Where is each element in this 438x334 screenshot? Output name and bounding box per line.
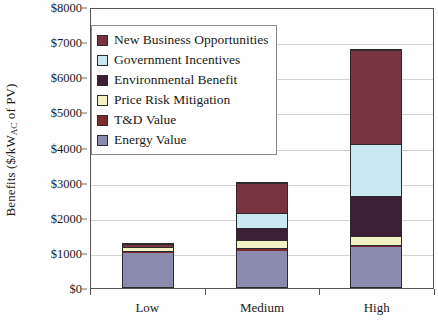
bar-slot <box>319 9 433 288</box>
y-axis-tick-mark <box>82 78 87 79</box>
y-axis-title-post: of PV) <box>3 84 18 123</box>
legend-item-label: Energy Value <box>114 133 187 147</box>
bar-segment[interactable] <box>351 144 401 196</box>
y-axis-tick-label: $0 <box>70 282 83 297</box>
y-axis-tick-mark <box>82 43 87 44</box>
y-axis-tick-label: $2000 <box>51 211 82 226</box>
y-axis-tick-label: $1000 <box>51 246 82 261</box>
legend-item[interactable]: T&D Value <box>97 110 269 130</box>
legend-item[interactable]: New Business Opportunities <box>97 30 269 50</box>
legend-item-label: Government Incentives <box>114 53 240 67</box>
bar-segment[interactable] <box>351 236 401 245</box>
x-axis-tick-labels: LowMediumHigh <box>90 300 434 316</box>
legend-item-label: Price Risk Mitigation <box>114 93 230 107</box>
y-axis-tick-mark <box>82 218 87 219</box>
legend-item-label: New Business Opportunities <box>114 33 269 47</box>
bar-segment[interactable] <box>237 251 287 287</box>
x-axis-tick-label: Low <box>90 300 205 316</box>
y-axis-tick-mark <box>82 148 87 149</box>
legend-item[interactable]: Energy Value <box>97 130 269 150</box>
stacked-bar[interactable] <box>350 49 402 288</box>
bar-segment[interactable] <box>237 240 287 248</box>
y-axis-tick-mark <box>82 183 87 184</box>
bar-segment[interactable] <box>237 183 287 213</box>
y-axis-tick-mark <box>82 253 87 254</box>
stacked-bar[interactable] <box>236 182 288 288</box>
y-axis-tick-label: $5000 <box>51 106 82 121</box>
y-axis-title-text: Benefits ($/kWAC of PV) <box>3 84 19 217</box>
y-axis-tick-mark <box>82 289 87 290</box>
legend-swatch-icon <box>97 95 108 106</box>
legend-item[interactable]: Government Incentives <box>97 50 269 70</box>
x-axis-tick-mark <box>434 289 435 295</box>
y-axis-tick-label: $8000 <box>51 1 82 16</box>
stacked-bar[interactable] <box>122 243 174 288</box>
y-axis-tick-labels: $0$1000$2000$3000$4000$5000$6000$7000$80… <box>18 8 86 289</box>
bar-segment[interactable] <box>351 50 401 143</box>
y-axis-tick-label: $3000 <box>51 176 82 191</box>
legend-swatch-icon <box>97 75 108 86</box>
x-axis-ticks <box>90 289 434 297</box>
bar-segment[interactable] <box>237 213 287 228</box>
y-axis-tick-label: $4000 <box>51 141 82 156</box>
legend-item-label: Environmental Benefit <box>114 73 237 87</box>
legend-item[interactable]: Price Risk Mitigation <box>97 90 269 110</box>
bar-segment[interactable] <box>237 228 287 241</box>
legend-swatch-icon <box>97 115 108 126</box>
x-axis-tick-mark <box>319 289 320 295</box>
bar-segment[interactable] <box>351 247 401 287</box>
legend-item-label: T&D Value <box>114 113 176 127</box>
y-axis-title-pre: Benefits ($/kW <box>3 135 18 216</box>
x-axis-tick-label: High <box>319 300 434 316</box>
x-axis-tick-mark <box>90 289 91 295</box>
legend-swatch-icon <box>97 135 108 146</box>
y-axis-tick-mark <box>82 8 87 9</box>
legend-swatch-icon <box>97 35 108 46</box>
y-axis-tick-label: $7000 <box>51 36 82 51</box>
chart-legend: New Business OpportunitiesGovernment Inc… <box>91 25 277 155</box>
stacked-bar-chart-figure: Benefits ($/kWAC of PV) $0$1000$2000$300… <box>0 0 438 334</box>
y-axis-tick-label: $6000 <box>51 71 82 86</box>
x-axis-tick-label: Medium <box>205 300 320 316</box>
bar-segment[interactable] <box>351 196 401 236</box>
y-axis-tick-mark <box>82 113 87 114</box>
x-axis-tick-mark <box>205 289 206 295</box>
bar-segment[interactable] <box>123 253 173 287</box>
legend-item[interactable]: Environmental Benefit <box>97 70 269 90</box>
legend-swatch-icon <box>97 55 108 66</box>
